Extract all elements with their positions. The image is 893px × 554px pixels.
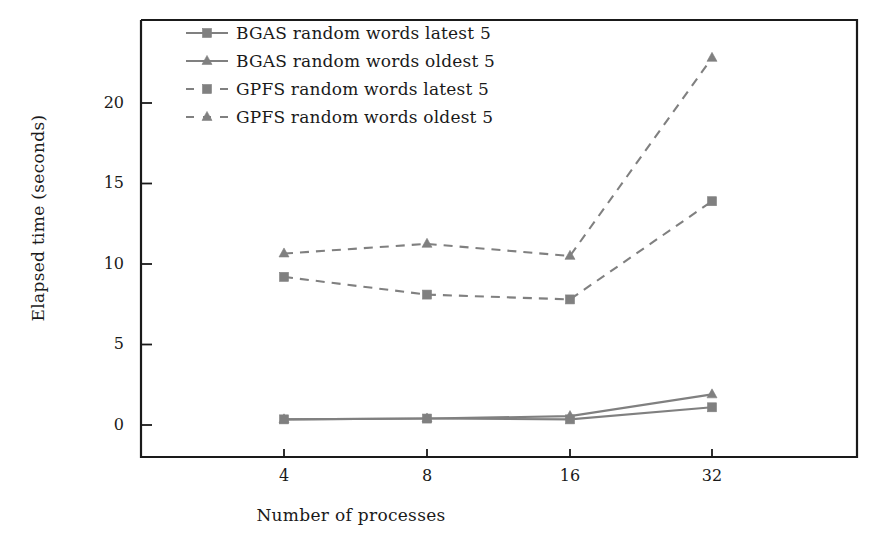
series-1	[279, 389, 717, 423]
legend-sample-1	[186, 55, 228, 64]
legend-samples-layer	[186, 29, 228, 121]
data-point-3-3	[707, 52, 717, 61]
ytick-label-15: 15	[84, 173, 124, 192]
legend-sample-marker-3	[202, 111, 212, 120]
data-point-2-2	[566, 295, 575, 304]
legend-sample-marker-2	[203, 85, 212, 94]
data-point-0-3	[708, 403, 717, 412]
xtick-label-4: 4	[259, 466, 309, 485]
ytick-label-0: 0	[84, 415, 124, 434]
data-point-1-3	[707, 389, 717, 398]
xtick-label-32: 32	[687, 466, 737, 485]
legend-label-1: BGAS random words oldest 5	[236, 51, 495, 71]
legend-sample-2	[186, 85, 228, 94]
legend-sample-marker-1	[202, 55, 212, 64]
legend-sample-marker-0	[203, 29, 212, 38]
chart-figure: 0 5 10 15 20 4 8 16 32 Elapsed time (sec…	[0, 0, 893, 554]
xtick-label-16: 16	[545, 466, 595, 485]
y-axis-ticks	[141, 103, 152, 425]
xtick-label-8: 8	[402, 466, 452, 485]
y-axis-title-wrap: Elapsed time (seconds)	[0, 0, 40, 440]
x-axis-title: Number of processes	[141, 505, 561, 525]
ytick-label-10: 10	[84, 254, 124, 273]
legend-label-2: GPFS random words latest 5	[236, 79, 489, 99]
series-line-1	[284, 394, 712, 419]
legend-sample-0	[186, 29, 228, 38]
data-point-2-1	[423, 290, 432, 299]
ytick-label-5: 5	[84, 334, 124, 353]
legend-label-3: GPFS random words oldest 5	[236, 107, 493, 127]
data-point-2-3	[708, 197, 717, 206]
data-point-3-1	[422, 238, 432, 247]
data-point-2-0	[280, 272, 289, 281]
legend-sample-3	[186, 111, 228, 120]
legend-label-0: BGAS random words latest 5	[236, 23, 491, 43]
y-axis-title: Elapsed time (seconds)	[28, 88, 48, 348]
x-axis-ticks	[284, 449, 712, 457]
ytick-label-20: 20	[84, 93, 124, 112]
series-0	[280, 403, 717, 424]
